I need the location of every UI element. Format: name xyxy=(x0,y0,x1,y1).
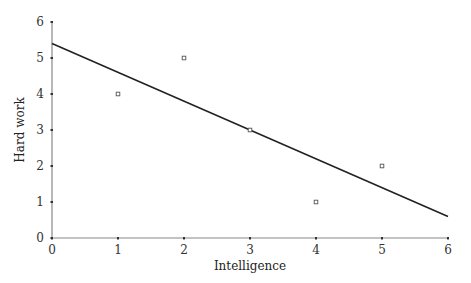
y-tick xyxy=(51,201,54,203)
x-axis-title: Intelligence xyxy=(214,259,286,273)
x-tick xyxy=(249,237,251,240)
x-tick-label: 4 xyxy=(312,243,320,257)
data-point xyxy=(182,56,186,60)
y-axis: 0123456 xyxy=(36,15,53,245)
y-tick-label: 0 xyxy=(36,231,44,245)
scatter-chart: 0123456 0123456 Intelligence Hard work xyxy=(0,0,471,283)
data-point xyxy=(248,128,252,132)
x-tick xyxy=(51,237,53,240)
x-tick xyxy=(183,237,185,240)
data-point xyxy=(314,200,318,204)
y-tick xyxy=(51,57,54,59)
y-tick-label: 6 xyxy=(36,15,44,29)
x-axis: 0123456 xyxy=(48,237,452,257)
y-tick-label: 5 xyxy=(36,51,44,65)
x-tick-label: 3 xyxy=(246,243,254,257)
x-tick xyxy=(315,237,317,240)
data-points xyxy=(116,56,384,204)
y-tick-label: 2 xyxy=(36,159,44,173)
x-tick-label: 2 xyxy=(180,243,188,257)
y-tick-label: 1 xyxy=(36,195,44,209)
x-tick-label: 1 xyxy=(114,243,122,257)
x-tick xyxy=(447,237,449,240)
data-point xyxy=(380,164,384,168)
y-tick-label: 3 xyxy=(36,123,44,137)
y-tick xyxy=(51,21,54,23)
y-tick xyxy=(51,165,54,167)
x-tick-label: 0 xyxy=(48,243,56,257)
x-tick xyxy=(117,237,119,240)
x-tick-label: 6 xyxy=(444,243,452,257)
y-axis-title: Hard work xyxy=(13,97,27,163)
y-tick xyxy=(51,93,54,95)
x-tick-label: 5 xyxy=(378,243,386,257)
y-tick-label: 4 xyxy=(36,87,44,101)
x-tick xyxy=(381,237,383,240)
y-tick xyxy=(51,129,54,131)
data-point xyxy=(116,92,120,96)
